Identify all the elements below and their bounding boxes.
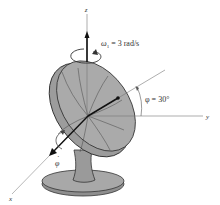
z-axis-label: z — [84, 6, 88, 14]
omega-arrowhead — [85, 31, 90, 38]
angular-velocity-label: ω1 = 3 rad/s — [101, 39, 139, 49]
tilt-angle-label: φ = 30° — [145, 95, 169, 104]
angle-arc — [137, 87, 142, 116]
dish-feed-point — [116, 96, 120, 100]
pedestal — [42, 150, 124, 196]
tilt-rate-dot: · — [57, 152, 60, 161]
satellite-dish-diagram: z ω1 = 3 rad/s y φ = 30° φ · x — [0, 0, 220, 205]
x-axis-label: x — [8, 195, 13, 203]
y-axis-label: y — [205, 113, 210, 121]
